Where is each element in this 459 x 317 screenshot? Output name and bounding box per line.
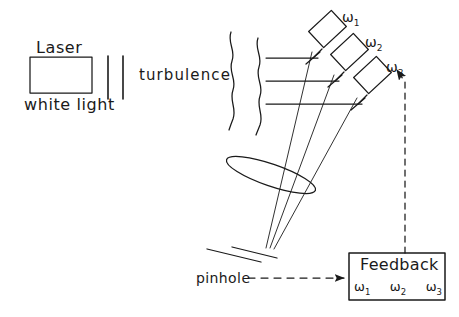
- pinhole-label: pinhole: [196, 271, 250, 285]
- omega-index: 2: [401, 287, 406, 297]
- laser-label: Laser: [36, 40, 82, 56]
- detector-body-2: [331, 33, 369, 70]
- detector-stem-1: [313, 49, 322, 58]
- omega-symbol: ω: [365, 34, 377, 50]
- converging-lens: [223, 149, 319, 200]
- detector-body-1: [309, 10, 347, 47]
- omega-index: 2: [377, 43, 383, 53]
- detector-3-omega-label: ω3: [386, 60, 403, 78]
- detector-2-omega-label: ω2: [365, 35, 382, 53]
- omega-symbol: ω: [354, 279, 365, 294]
- imaging-ray-2: [270, 75, 334, 248]
- detector-1-omega-label: ω1: [342, 10, 359, 28]
- optical-schematic-figure: Laser white light turbulence pinhole ω1 …: [0, 0, 459, 317]
- white-light-label: white light: [24, 97, 115, 113]
- omega-index: 1: [365, 287, 370, 297]
- omega-index: 3: [437, 287, 442, 297]
- imaging-ray-3: [274, 98, 357, 249]
- feedback-channel-1: ω1: [354, 280, 370, 296]
- detector-stem-2: [335, 72, 344, 81]
- detector-stem-3: [358, 95, 367, 104]
- feedback-title: Feedback: [360, 257, 439, 273]
- feedback-channel-3: ω3: [426, 280, 442, 296]
- feedback-channel-2: ω2: [390, 280, 406, 296]
- pinhole-plate-left: [207, 249, 261, 262]
- feedback-channel-list: ω1 ω2 ω3: [354, 280, 442, 296]
- turbulence-wave-2: [256, 38, 261, 135]
- omega-index: 1: [354, 18, 360, 28]
- laser-source-box: [30, 57, 92, 93]
- omega-symbol: ω: [390, 279, 401, 294]
- omega-index: 3: [398, 68, 404, 78]
- turbulence-label: turbulence: [139, 68, 231, 83]
- feedback-control-line: [397, 70, 405, 253]
- omega-symbol: ω: [342, 9, 354, 25]
- omega-symbol: ω: [386, 59, 398, 75]
- omega-symbol: ω: [426, 279, 437, 294]
